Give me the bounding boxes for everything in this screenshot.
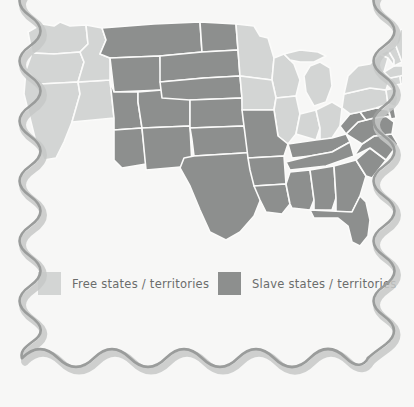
legend-swatch-slave (218, 272, 241, 295)
state-wyoming (110, 56, 162, 92)
us-map-svg (14, 10, 402, 255)
state-nevada (72, 80, 114, 122)
legend-item-free: Free states / territories (38, 272, 209, 295)
state-california (24, 70, 80, 160)
map-legend: Free states / territories Slave states /… (0, 272, 414, 308)
legend-label-free: Free states / territories (72, 277, 209, 291)
state-north-dakota (200, 22, 238, 52)
state-ohio (316, 102, 342, 140)
state-arkansas (248, 156, 286, 186)
state-new-york (344, 54, 390, 94)
state-kansas (190, 98, 244, 128)
state-arizona (114, 128, 146, 168)
state-mississippi (286, 170, 314, 210)
state-iowa (240, 76, 276, 110)
state-michigan-upper (284, 50, 326, 62)
map-page: Free states / territories Slave states /… (0, 0, 414, 407)
state-alabama (310, 166, 336, 210)
legend-label-slave: Slave states / territories (252, 277, 396, 291)
state-washington (28, 22, 88, 54)
state-delaware (388, 107, 396, 119)
state-new-jersey (386, 88, 398, 107)
state-louisiana (254, 184, 290, 214)
state-montana (100, 22, 202, 58)
us-map-container (14, 10, 402, 255)
state-michigan (304, 62, 332, 106)
state-minnesota (236, 24, 274, 80)
legend-item-slave: Slave states / territories (218, 272, 396, 295)
legend-swatch-free (38, 272, 61, 295)
